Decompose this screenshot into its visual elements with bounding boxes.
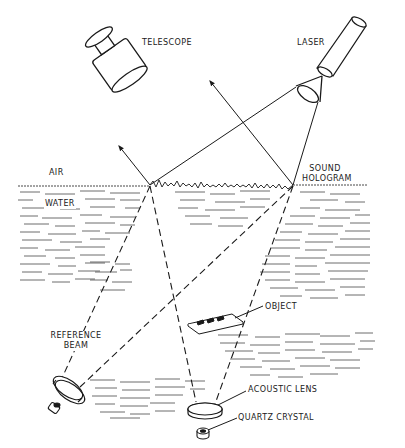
object-leader bbox=[235, 306, 263, 318]
reflected-ray-right-arrow bbox=[210, 81, 293, 185]
quartz-crystal-label: QUARTZ CRYSTAL bbox=[238, 413, 314, 423]
acoustic-lens-leader bbox=[218, 391, 246, 405]
reference-beam-label-line2: BEAM bbox=[50, 341, 102, 351]
sound-hologram-ripples bbox=[150, 180, 293, 189]
telescope-label: TELESCOPE bbox=[142, 38, 192, 48]
reference-crystal-icon bbox=[48, 402, 61, 414]
laser-label: LASER bbox=[297, 38, 325, 48]
reference-beam-label-line1: REFERENCE bbox=[50, 331, 102, 341]
quartz-crystal-icon bbox=[197, 428, 209, 439]
reflected-rays bbox=[119, 81, 293, 185]
sound-hologram-label-line2: HOLOGRAM bbox=[302, 174, 348, 184]
laser-rays bbox=[150, 87, 318, 185]
object-icon bbox=[188, 314, 243, 334]
quartz-crystal-leader bbox=[208, 418, 237, 430]
laser-icon bbox=[295, 15, 368, 106]
sound-hologram-label: SOUND HOLOGRAM bbox=[302, 164, 348, 184]
acoustic-lens-label: ACOUSTIC LENS bbox=[248, 385, 317, 395]
object-beam-right bbox=[215, 186, 293, 404]
air-label: AIR bbox=[49, 168, 64, 178]
reference-beam-label: REFERENCE BEAM bbox=[50, 331, 102, 351]
acoustic-holography-diagram bbox=[0, 0, 405, 448]
acoustic-beams bbox=[62, 186, 293, 404]
reflected-ray-left-arrow bbox=[119, 146, 150, 185]
water-label: WATER bbox=[44, 199, 76, 209]
object-beam-left bbox=[150, 186, 196, 402]
sound-hologram-label-line1: SOUND bbox=[302, 164, 348, 174]
object-label: OBJECT bbox=[265, 302, 297, 312]
acoustic-lens-icon bbox=[188, 403, 222, 419]
telescope-icon bbox=[80, 20, 151, 96]
